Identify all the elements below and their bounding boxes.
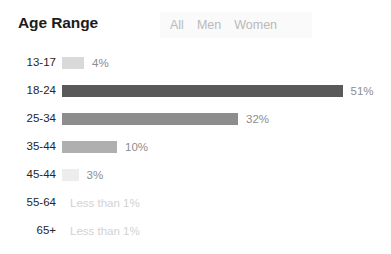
bar-row: 25-3432% [0,106,391,134]
bar-track: 4% [62,57,391,69]
bar-row: 65+Less than 1% [0,218,391,246]
bar-track: 51% [62,85,391,97]
bar-row-label: 25-34 [0,112,56,124]
bar-track: 3% [62,169,391,181]
bar-fill[interactable] [62,57,84,69]
bar-track: Less than 1% [62,225,391,237]
bar-value-label: 51% [351,84,374,98]
bar-row-label: 13-17 [0,56,56,68]
bar-fill[interactable] [62,169,79,181]
bar-value-label: Less than 1% [70,224,140,238]
bar-track: 10% [62,141,391,153]
bar-row: 13-174% [0,50,391,78]
bar-value-label: 10% [125,140,148,154]
bar-row-label: 55-64 [0,196,56,208]
segment-option-women[interactable]: Women [234,12,277,38]
bar-row-label: 18-24 [0,84,56,96]
page-title: Age Range [18,14,98,32]
bar-value-label: Less than 1% [70,196,140,210]
bar-value-label: 32% [246,112,269,126]
bar-fill[interactable] [62,85,343,97]
bar-value-label: 4% [92,56,109,70]
bar-row: 45-443% [0,162,391,190]
chart-header: Age Range All Men Women [0,0,391,48]
bar-track: Less than 1% [62,197,391,209]
bar-chart-rows: 13-174%18-2451%25-3432%35-4410%45-443%55… [0,50,391,246]
bar-row: 18-2451% [0,78,391,106]
bar-row-label: 45-44 [0,168,56,180]
bar-row-label: 35-44 [0,140,56,152]
bar-row: 55-64Less than 1% [0,190,391,218]
bar-fill[interactable] [62,141,117,153]
bar-track: 32% [62,113,391,125]
gender-segment-toggle[interactable]: All Men Women [160,12,312,38]
bar-value-label: 3% [87,168,104,182]
age-range-chart-widget: Age Range All Men Women 13-174%18-2451%2… [0,0,391,254]
bar-fill[interactable] [62,113,238,125]
segment-option-men[interactable]: Men [197,12,221,38]
segment-option-all[interactable]: All [170,12,184,38]
bar-row-label: 65+ [0,224,56,236]
bar-row: 35-4410% [0,134,391,162]
